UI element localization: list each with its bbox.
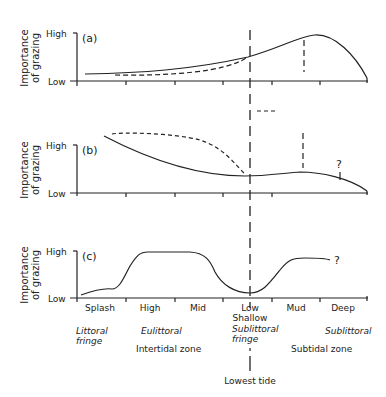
panel-b-solid-curve [104, 136, 367, 191]
x-label-mud: Mud [286, 303, 305, 313]
panel-a-low-label: Low [48, 77, 66, 87]
panel-c-label: (c) [82, 250, 97, 263]
x-label-high: High [140, 303, 161, 313]
zone-sublittoral-fringe-line1: Sublittoral [232, 324, 279, 334]
zone-littoral-fringe-line2: fringe [76, 336, 103, 346]
panel-c-low-label: Low [48, 294, 66, 304]
x-label-low: Low [241, 303, 259, 313]
svg-text:Importance: Importance [19, 246, 30, 303]
panel-a-label: (a) [82, 32, 97, 45]
zone-sublittoral-fringe-line2: fringe [232, 334, 259, 344]
svg-text:Importance: Importance [19, 141, 30, 198]
panel-b-dashed-curve [112, 133, 246, 175]
panel-b-high-label: High [46, 141, 67, 151]
panel-b-question-mark: ? [336, 158, 342, 171]
panel-a-solid-curve [85, 35, 367, 78]
x-label-shallow: Shallow [233, 313, 268, 323]
svg-text:of grazing: of grazing [30, 145, 41, 195]
panel-a [70, 33, 368, 86]
y-axis-label-b: Importance of grazing [19, 141, 41, 198]
panel-b-label: (b) [82, 144, 98, 157]
panel-c-question-mark: ? [334, 254, 340, 267]
zone-intertidal: Intertidal zone [136, 344, 202, 354]
svg-text:Importance: Importance [19, 29, 30, 86]
zone-littoral-fringe-line1: Littoral [76, 326, 108, 336]
panel-c-solid-curve [81, 252, 330, 295]
grazing-importance-diagram: Importance of grazing Importance of graz… [0, 0, 386, 397]
panel-c-high-label: High [46, 247, 67, 257]
svg-text:of grazing: of grazing [30, 33, 41, 83]
zone-eulittoral: Eulittoral [141, 326, 182, 336]
y-axis-label-a: Importance of grazing [19, 29, 41, 86]
zone-subtidal: Subtidal zone [291, 344, 353, 354]
panel-b-low-label: Low [48, 189, 66, 199]
x-label-mid: Mid [190, 303, 206, 313]
panel-b [70, 111, 368, 197]
panel-c [70, 251, 368, 302]
y-axis-label-c: Importance of grazing [19, 246, 41, 303]
x-label-deep: Deep [331, 303, 355, 313]
panel-a-high-label: High [46, 29, 67, 39]
zone-sublittoral: Sublittoral [325, 326, 372, 336]
svg-text:of grazing: of grazing [30, 250, 41, 300]
lowest-tide-label: Lowest tide [224, 376, 276, 386]
x-label-splash: Splash [85, 303, 115, 313]
